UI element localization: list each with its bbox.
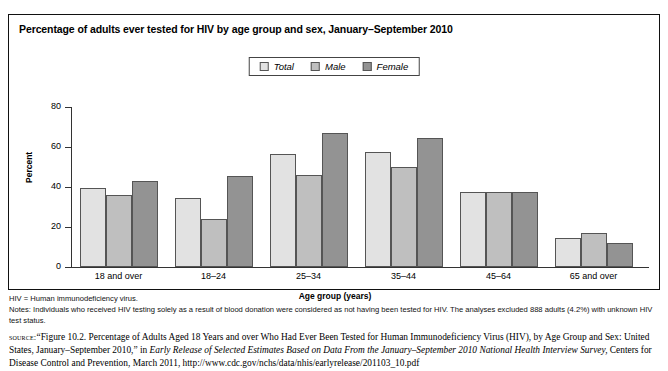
bar-group: 45–64 [451,107,546,267]
bar-female [322,133,348,267]
x-axis-group-label: 25–34 [261,271,356,281]
source-label: source: [9,332,36,342]
source-block: source:“Figure 10.2. Percentage of Adult… [9,331,663,370]
bar-total [175,198,201,267]
x-axis-group-label: 35–44 [356,271,451,281]
y-axis-tick-label: 40 [51,181,61,191]
bar-total [80,188,106,267]
y-axis-tick: 0 [65,267,71,268]
bar-group: 65 and over [546,107,641,267]
bar-male [486,192,512,267]
bar-female [132,181,158,267]
bar-total [270,154,296,267]
x-axis-line [71,267,649,268]
notes-block: HIV = Human immunodeficiency virus. Note… [9,294,661,326]
bar-female [227,176,253,267]
bar-male [296,175,322,267]
bar-group: 35–44 [356,107,451,267]
y-axis-tick-label: 60 [51,141,61,151]
y-axis-tick-label: 0 [56,261,61,271]
plot-wrapper: Percent 020406080 18 and over18–2425–343… [9,15,661,291]
bar-male [201,219,227,267]
bar-female [417,138,443,267]
bar-male [581,233,607,267]
bar-group: 25–34 [261,107,356,267]
x-axis-group-label: 18–24 [166,271,261,281]
methodology-note: Notes: Individuals who received HIV test… [9,305,661,327]
y-axis-tick-label: 20 [51,221,61,231]
abbreviation-note: HIV = Human immunodeficiency virus. [9,294,661,305]
bar-male [106,195,132,267]
bar-male [391,167,417,267]
plot-area: 18 and over18–2425–3435–4445–6465 and ov… [71,107,641,267]
bar-female [512,192,538,267]
source-italic-title: Early Release of Selected Estimates Base… [150,345,608,355]
bar-group: 18 and over [71,107,166,267]
y-axis-tick-label: 80 [51,101,61,111]
bar-total [555,238,581,267]
bar-group: 18–24 [166,107,261,267]
bar-female [607,243,633,267]
bar-total [365,152,391,267]
figure-frame: Percentage of adults ever tested for HIV… [8,14,660,290]
y-axis-title: Percent [24,152,34,183]
bar-total [460,192,486,267]
x-axis-group-label: 18 and over [71,271,166,281]
x-axis-group-label: 45–64 [451,271,546,281]
x-axis-group-label: 65 and over [546,271,641,281]
